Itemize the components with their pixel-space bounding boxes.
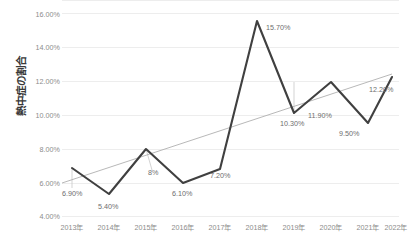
data-label-2020: 11.90% xyxy=(308,112,332,119)
y-axis-tick-labels: 16.00% 14.00% 12.00% 10.00% 8.00% 6.00% … xyxy=(24,0,60,243)
series-line xyxy=(72,21,392,194)
y-tick-label: 12.00% xyxy=(24,78,60,85)
x-tick-label-2022: 2022年 xyxy=(385,224,408,231)
x-tick-label-2020: 2020年 xyxy=(320,224,343,231)
data-label-2021: 9.50% xyxy=(339,130,359,137)
y-tick-label: 16.00% xyxy=(24,11,60,18)
x-tick-label-2018: 2018年 xyxy=(246,224,269,231)
x-tick-label-2021: 2021年 xyxy=(357,224,380,231)
x-tick-label-2019: 2019年 xyxy=(283,224,306,231)
chart-svg xyxy=(62,0,399,213)
gridline-4 xyxy=(62,216,399,217)
data-label-2022: 12.20% xyxy=(369,86,393,93)
y-tick-label: 4.00% xyxy=(24,213,60,220)
data-label-2013: 6.90% xyxy=(62,190,82,197)
y-tick-label: 8.00% xyxy=(24,146,60,153)
plot-area: 6.90% 5.40% 8% 6.10% 7.20% 15.70% 10.30%… xyxy=(62,0,399,213)
data-label-2017: 7.20% xyxy=(210,172,230,179)
y-tick-label: 14.00% xyxy=(24,44,60,51)
data-label-2016: 6.10% xyxy=(172,190,192,197)
x-tick-label-2017: 2017年 xyxy=(209,224,232,231)
x-tick-label-2015: 2015年 xyxy=(135,224,158,231)
data-label-2019: 10.30% xyxy=(280,120,304,127)
data-label-2015: 8% xyxy=(148,169,158,176)
data-label-2018: 15.70% xyxy=(266,24,290,31)
leader-lines xyxy=(72,82,294,188)
x-axis-tick-labels: 2013年 2014年 2015年 2016年 2017年 2018年 2019… xyxy=(62,224,399,240)
x-tick-label-2013: 2013年 xyxy=(61,224,84,231)
y-tick-label: 6.00% xyxy=(24,180,60,187)
y-tick-label: 10.00% xyxy=(24,112,60,119)
x-tick-label-2016: 2016年 xyxy=(172,224,195,231)
data-label-2014: 5.40% xyxy=(98,203,118,210)
x-tick-label-2014: 2014年 xyxy=(98,224,121,231)
